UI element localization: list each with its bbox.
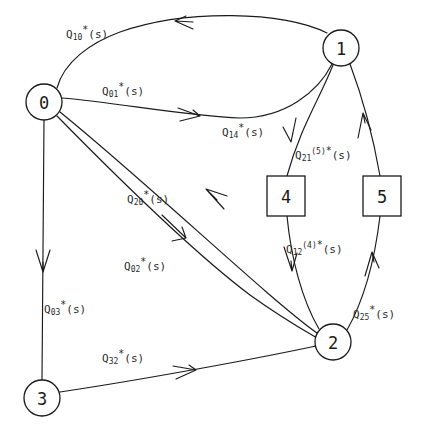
node-2[interactable]: 2 xyxy=(315,324,351,360)
node-4-label: 4 xyxy=(281,187,291,207)
diagram-canvas: 0 1 2 3 4 5 xyxy=(0,0,422,444)
edge-label-Q14: Q14*(s) xyxy=(222,123,264,140)
node-0[interactable]: 0 xyxy=(26,84,62,120)
edge-label-Q20: Q20*(s) xyxy=(127,190,169,207)
edge-5-to-1 xyxy=(350,64,380,176)
state-transition-diagram: 0 1 2 3 4 5 Q10*(s) Q01*(s) Q14*(s) Q21(… xyxy=(0,0,422,444)
edge-label-Q25: Q25*(s) xyxy=(353,305,395,322)
edge-label-Q10: Q10*(s) xyxy=(66,25,108,42)
node-5[interactable]: 5 xyxy=(363,176,401,216)
edge-2-to-0 xyxy=(60,112,317,333)
edge-0-to-2 xyxy=(57,116,317,338)
node-1-label: 1 xyxy=(336,39,346,59)
node-0-label: 0 xyxy=(39,93,49,113)
node-5-label: 5 xyxy=(377,187,387,207)
edge-3-to-2 xyxy=(60,346,316,392)
edge-label-Q32: Q32*(s) xyxy=(102,349,144,366)
node-2-label: 2 xyxy=(328,333,338,353)
edge-label-Q03: Q03*(s) xyxy=(44,300,86,317)
node-1[interactable]: 1 xyxy=(323,30,359,66)
node-3[interactable]: 3 xyxy=(24,380,60,416)
node-3-label: 3 xyxy=(37,389,47,409)
edge-label-Q02: Q02*(s) xyxy=(124,257,166,274)
edge-0-to-3 xyxy=(36,120,50,380)
edge-label-Q01: Q01*(s) xyxy=(102,82,144,99)
node-4[interactable]: 4 xyxy=(267,176,305,216)
edge-label-Q21: Q21(5)*(s) xyxy=(295,146,352,163)
edge-label-Q12: Q12(4)*(s) xyxy=(286,240,343,257)
